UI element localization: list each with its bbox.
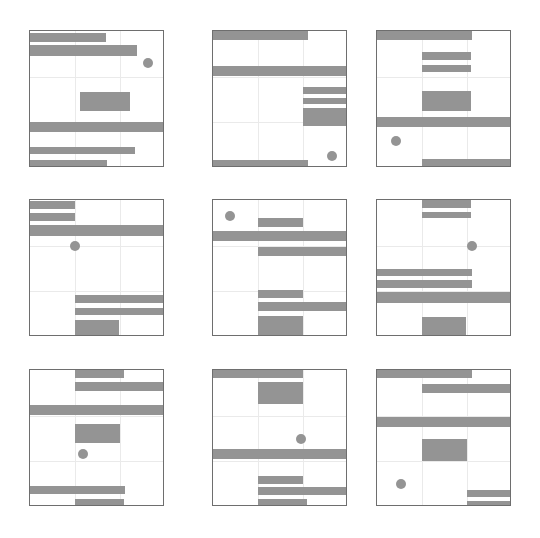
- bar-block-1: [377, 31, 472, 40]
- bar-block-2: [75, 382, 164, 390]
- gridline-horizontal-1: [377, 77, 510, 78]
- gridline-horizontal-2: [377, 461, 510, 462]
- bar-block-3: [30, 225, 164, 235]
- gridline-horizontal-1: [377, 246, 510, 247]
- bar-block-4: [258, 476, 304, 484]
- bar-block-6: [467, 501, 511, 506]
- bar-block-5: [377, 292, 511, 302]
- point-marker: [143, 58, 153, 68]
- point-marker: [396, 479, 406, 489]
- panel-9: [376, 369, 511, 506]
- point-marker: [467, 241, 477, 251]
- bar-block-5: [377, 117, 511, 127]
- gridline-horizontal-2: [30, 291, 163, 292]
- panel-4: [29, 199, 164, 336]
- point-marker: [225, 211, 235, 221]
- panel-3: [376, 30, 511, 167]
- gridline-horizontal-1: [30, 416, 163, 417]
- bar-block-5: [303, 108, 347, 125]
- bar-block-4: [422, 439, 468, 462]
- bar-block-2: [422, 212, 472, 218]
- point-marker: [78, 449, 88, 459]
- bar-block-6: [422, 159, 511, 167]
- gridline-horizontal-1: [213, 416, 346, 417]
- bar-block-5: [30, 147, 135, 155]
- point-marker: [391, 136, 401, 146]
- bar-block-1: [213, 31, 308, 40]
- gridline-horizontal-2: [213, 461, 346, 462]
- gridline-horizontal-2: [30, 461, 163, 462]
- panel-5: [212, 199, 347, 336]
- bar-block-5: [30, 486, 125, 494]
- gridline-horizontal-1: [213, 77, 346, 78]
- figure-canvas: [0, 0, 540, 538]
- bar-block-4: [377, 280, 472, 288]
- bar-block-6: [30, 160, 107, 167]
- bar-block-3: [422, 65, 472, 73]
- bar-block-3: [303, 87, 347, 94]
- bar-block-1: [30, 33, 106, 41]
- bar-block-4: [75, 295, 164, 303]
- bar-block-3: [377, 417, 511, 427]
- panel-7: [29, 369, 164, 506]
- bar-block-3: [258, 247, 347, 256]
- gridline-horizontal-1: [30, 246, 163, 247]
- bar-block-5: [467, 490, 511, 497]
- bar-block-1: [377, 370, 472, 378]
- gridline-horizontal-1: [30, 77, 163, 78]
- bar-block-3: [377, 269, 472, 277]
- bar-block-5: [258, 302, 347, 310]
- bar-block-3: [213, 449, 347, 459]
- bar-block-2: [30, 213, 75, 221]
- point-marker: [70, 241, 80, 251]
- panel-6: [376, 199, 511, 336]
- bar-block-6: [258, 316, 304, 336]
- point-marker: [296, 434, 306, 444]
- bar-block-1: [75, 370, 125, 378]
- gridline-vertical-2: [467, 200, 468, 335]
- bar-block-1: [258, 218, 304, 226]
- bar-block-4: [30, 122, 164, 132]
- bar-block-1: [213, 370, 303, 378]
- bar-block-4: [422, 91, 472, 111]
- point-marker: [327, 151, 337, 161]
- bar-block-2: [422, 52, 472, 60]
- bar-block-4: [303, 98, 347, 105]
- bar-block-5: [258, 487, 347, 495]
- bar-block-4: [258, 290, 304, 298]
- bar-block-6: [75, 499, 125, 506]
- bar-block-2: [213, 231, 347, 241]
- bar-block-3: [30, 405, 164, 415]
- bar-block-2: [30, 45, 137, 55]
- gridline-vertical-1: [422, 200, 423, 335]
- bar-block-6: [258, 499, 308, 506]
- bar-block-1: [422, 200, 472, 208]
- bar-block-6: [422, 317, 467, 336]
- bar-block-5: [75, 308, 164, 316]
- bar-block-1: [30, 201, 75, 209]
- bar-block-3: [80, 92, 130, 111]
- bar-block-2: [258, 382, 304, 405]
- bar-block-2: [422, 384, 511, 392]
- bar-block-2: [213, 66, 347, 76]
- gridline-vertical-1: [258, 31, 259, 166]
- panel-1: [29, 30, 164, 167]
- panel-2: [212, 30, 347, 167]
- bar-block-4: [75, 424, 121, 443]
- bar-block-6: [75, 320, 120, 336]
- bar-block-6: [213, 160, 308, 167]
- panel-8: [212, 369, 347, 506]
